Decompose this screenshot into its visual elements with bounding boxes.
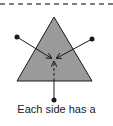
bottom-point-icon — [52, 98, 57, 103]
caption: Each side has a — [0, 103, 113, 115]
right-point-icon — [90, 37, 95, 42]
left-point-icon — [15, 35, 20, 40]
triangle — [17, 17, 92, 81]
